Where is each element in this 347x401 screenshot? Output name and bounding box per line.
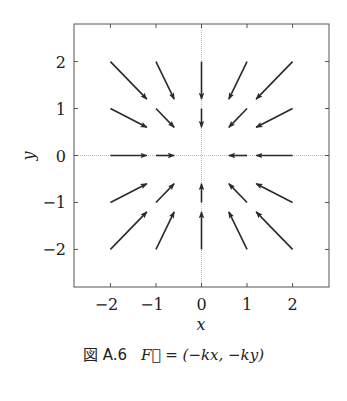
vector-arrows (110, 62, 292, 250)
vector-arrow (156, 62, 174, 100)
vector-arrow (256, 184, 292, 203)
x-axis-label: x (196, 315, 205, 334)
vector-arrow (110, 62, 146, 100)
y-tick-label: −2 (42, 240, 66, 259)
y-axis-label: y (19, 151, 38, 162)
y-tick-label: 1 (56, 100, 66, 119)
x-tick-labels: −2−1012 (95, 295, 298, 314)
x-tick-label: 0 (196, 295, 206, 314)
vector-arrow (229, 109, 247, 128)
x-tick-label: −1 (140, 295, 164, 314)
figure-caption: 図 A.6F⃗ = (−kx, −ky) (0, 343, 347, 364)
x-tick-label: 1 (242, 295, 252, 314)
vector-arrow (156, 212, 174, 250)
vector-arrow (229, 212, 247, 250)
figure-label: 図 A.6 (83, 346, 127, 364)
vector-arrow (229, 184, 247, 203)
vector-arrow (256, 109, 292, 128)
vector-arrow (110, 184, 146, 203)
y-tick-labels: −2−1012 (42, 53, 66, 260)
x-tick-label: 2 (287, 295, 297, 314)
vector-arrow (156, 184, 174, 203)
vector-field-figure: −2−1012 −2−1012 x y 図 A.6F⃗ = (−kx, −ky) (0, 0, 347, 401)
vector-arrow (256, 62, 292, 100)
quiver-plot: −2−1012 −2−1012 x y (0, 0, 347, 340)
vector-arrow (229, 62, 247, 100)
y-tick-label: 0 (56, 147, 66, 166)
vector-arrow (110, 109, 146, 128)
vector-arrow (110, 212, 146, 250)
vector-arrow (156, 109, 174, 128)
y-tick-label: 2 (56, 53, 66, 72)
vector-arrow (256, 212, 292, 250)
figure-formula: F⃗ = (−kx, −ky) (141, 346, 264, 364)
x-tick-label: −2 (95, 295, 119, 314)
y-tick-label: −1 (42, 193, 66, 212)
